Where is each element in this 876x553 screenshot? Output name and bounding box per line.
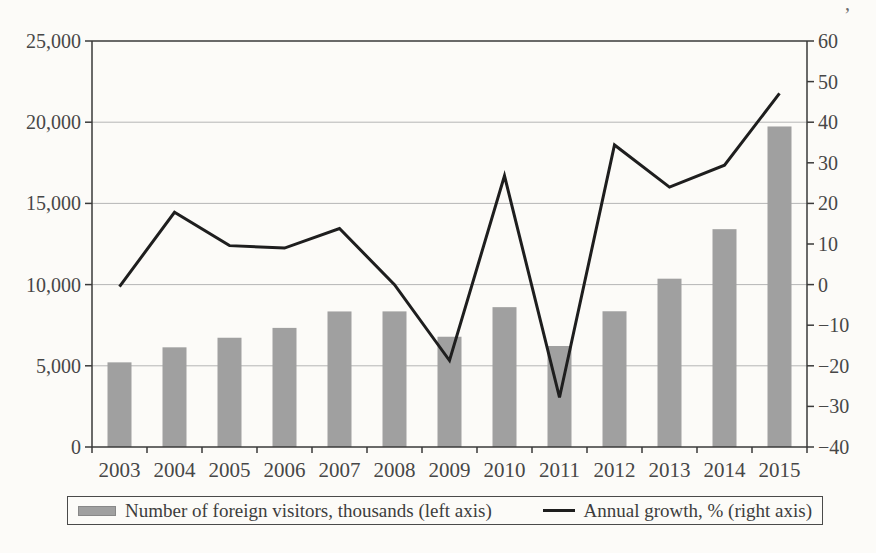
- bar-2008: [383, 311, 407, 447]
- right-axis-tick-label: 30: [818, 152, 838, 174]
- x-axis-year-label: 2009: [429, 458, 471, 482]
- right-axis-tick-label: −30: [818, 395, 849, 417]
- bar-2009: [438, 337, 462, 447]
- chart-legend: Number of foreign visitors, thousands (l…: [67, 496, 823, 525]
- left-axis-tick-label: 25,000: [26, 30, 81, 52]
- bar-2007: [328, 311, 352, 447]
- x-axis-year-label: 2004: [154, 458, 197, 482]
- line-series-label: Annual growth, % (right axis): [584, 501, 812, 520]
- x-axis-year-label: 2006: [264, 458, 306, 482]
- x-axis-year-label: 2013: [649, 458, 691, 482]
- x-axis-year-label: 2008: [374, 458, 416, 482]
- right-axis-tick-label: 0: [818, 274, 828, 296]
- legend-item-growth: Annual growth, % (right axis): [543, 501, 812, 520]
- right-axis-tick-label: 50: [818, 71, 838, 93]
- bar-2003: [108, 362, 132, 447]
- bar-2004: [163, 347, 187, 447]
- left-axis-tick-label: 15,000: [26, 192, 81, 214]
- x-axis-year-label: 2012: [594, 458, 636, 482]
- left-axis-tick-label: 5,000: [36, 355, 81, 377]
- line-series-swatch: [543, 509, 575, 512]
- left-axis-tick-label: 0: [71, 436, 81, 458]
- right-axis-tick-label: 10: [818, 233, 838, 255]
- bar-2006: [273, 328, 297, 447]
- right-axis-tick-label: −20: [818, 355, 849, 377]
- x-axis-year-label: 2003: [99, 458, 141, 482]
- x-axis-year-label: 2011: [539, 458, 580, 482]
- scanned-figure-page: , 05,00010,00015,00020,00025,000−40−30−2…: [0, 0, 876, 553]
- x-axis-year-label: 2015: [759, 458, 801, 482]
- bar-2014: [713, 229, 737, 447]
- right-axis-tick-label: −10: [818, 314, 849, 336]
- bar-2010: [493, 307, 517, 447]
- x-axis-year-label: 2005: [209, 458, 251, 482]
- bar-2015: [768, 126, 792, 447]
- bar-2013: [658, 279, 682, 447]
- visitors-growth-combo-chart: 05,00010,00015,00020,00025,000−40−30−20−…: [0, 0, 876, 496]
- bar-2005: [218, 338, 242, 447]
- left-axis-tick-label: 20,000: [26, 111, 81, 133]
- x-axis-year-label: 2010: [484, 458, 526, 482]
- right-axis-tick-label: 40: [818, 111, 838, 133]
- right-axis-tick-label: −40: [818, 436, 849, 458]
- bar-2012: [603, 311, 627, 447]
- left-axis-tick-label: 10,000: [26, 274, 81, 296]
- right-axis-tick-label: 20: [818, 192, 838, 214]
- right-axis-tick-label: 60: [818, 30, 838, 52]
- legend-item-visitors: Number of foreign visitors, thousands (l…: [78, 501, 492, 520]
- x-axis-year-label: 2007: [319, 458, 361, 482]
- bar-series-swatch: [78, 506, 116, 516]
- bar-series-label: Number of foreign visitors, thousands (l…: [125, 501, 492, 520]
- x-axis-year-label: 2014: [704, 458, 747, 482]
